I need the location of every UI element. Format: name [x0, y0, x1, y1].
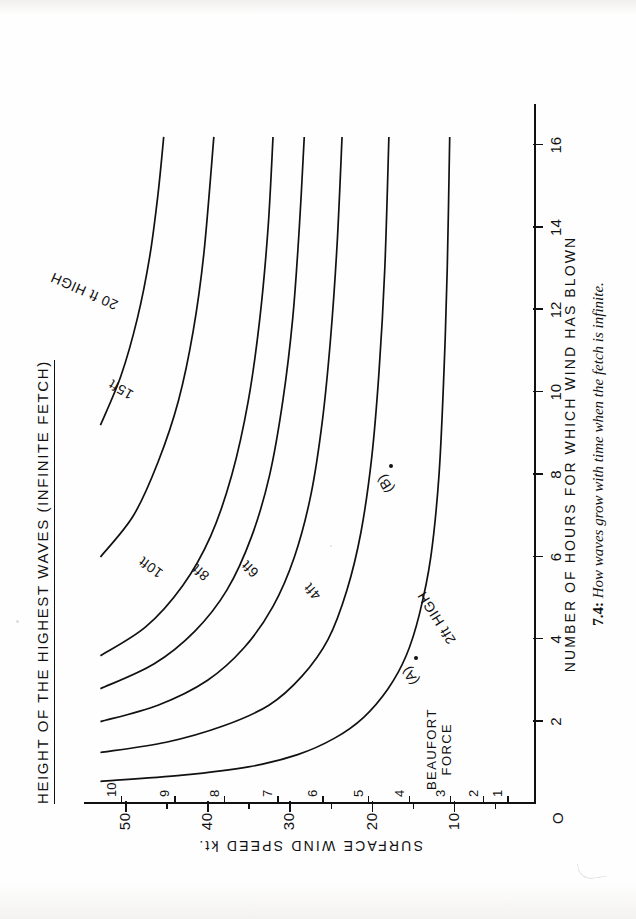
wind-speed-axis-title: SURFACE WIND SPEED kt.	[197, 838, 423, 854]
scan-edge-top	[0, 0, 636, 14]
beaufort-tick	[409, 796, 410, 804]
wind-speed-minor-tick	[495, 802, 496, 809]
beaufort-tick	[174, 796, 175, 804]
beaufort-force-axis-title: BEAUFORT FORCE	[425, 708, 455, 790]
hours-tick	[533, 720, 543, 721]
beaufort-tick-label: 10	[104, 782, 119, 796]
beaufort-title-line2: FORCE	[440, 708, 455, 790]
beaufort-tick	[507, 796, 508, 804]
wind-speed-tick: 50	[125, 801, 127, 812]
wave-height-curves	[84, 104, 536, 804]
wind-speed-minor-tick	[331, 802, 332, 809]
wind-speed-minor-tick	[248, 802, 249, 809]
beaufort-tick	[322, 796, 323, 804]
wind-speed-tick-label: 40	[198, 812, 215, 830]
hours-tick	[533, 143, 543, 144]
hours-tick	[533, 637, 543, 638]
figure-caption: 7.4: How waves grow with time when the f…	[590, 104, 607, 804]
wind-speed-tick: 10	[454, 801, 456, 812]
wind-speed-axis-title-wrap: SURFACE WIND SPEED kt.	[84, 836, 536, 856]
wind-speed-minor-tick	[166, 802, 167, 809]
point-a-marker-dot	[414, 655, 418, 659]
wind-speed-tick: 30	[289, 801, 291, 812]
wind-speed-tick-label: 50	[116, 812, 133, 830]
beaufort-tick-label: 7	[260, 789, 275, 796]
scanned-page: HEIGHT OF THE HIGHEST WAVES (INFINITE FE…	[0, 0, 636, 919]
hours-tick	[533, 226, 543, 227]
wind-speed-tick-label: 30	[281, 812, 298, 830]
hours-tick	[533, 308, 543, 309]
figure-title: HEIGHT OF THE HIGHEST WAVES (INFINITE FE…	[34, 360, 55, 804]
wind-speed-tick-label: 20	[363, 812, 380, 830]
beaufort-tick-label: 4	[391, 789, 406, 796]
plot-area: 1020304050 12345678910 246810121416 2ft …	[84, 104, 536, 804]
caption-number: 7.4:	[590, 602, 606, 626]
hours-tick	[533, 555, 543, 556]
hours-axis-title: NUMBER OF HOURS FOR WHICH WIND HAS BLOWN	[562, 104, 578, 804]
wind-speed-minor-tick	[413, 802, 414, 809]
beaufort-tick	[368, 796, 369, 804]
beaufort-title-line1: BEAUFORT	[425, 708, 440, 790]
beaufort-tick	[224, 796, 225, 804]
wind-speed-tick: 40	[207, 801, 209, 812]
beaufort-tick-label: 6	[305, 789, 320, 796]
beaufort-tick	[483, 796, 484, 804]
wind-speed-tick-label: 10	[445, 812, 462, 830]
hours-tick	[533, 473, 543, 474]
beaufort-tick	[121, 796, 122, 804]
beaufort-tick-label: 3	[432, 789, 447, 796]
beaufort-tick-label: 5	[350, 789, 365, 796]
beaufort-tick-label: 2	[465, 789, 480, 796]
wave-height-figure: HEIGHT OF THE HIGHEST WAVES (INFINITE FE…	[18, 20, 618, 900]
beaufort-tick	[277, 796, 278, 804]
hours-tick	[533, 390, 543, 391]
beaufort-tick-label: 9	[157, 789, 172, 796]
wind-speed-tick: 20	[372, 801, 374, 812]
beaufort-tick	[450, 796, 451, 804]
beaufort-tick-label: 1	[490, 789, 505, 796]
caption-text: How waves grow with time when the fetch …	[590, 282, 606, 602]
beaufort-tick-label: 8	[206, 789, 221, 796]
origin-label: O	[549, 812, 566, 824]
wave-height-curve	[100, 136, 388, 752]
